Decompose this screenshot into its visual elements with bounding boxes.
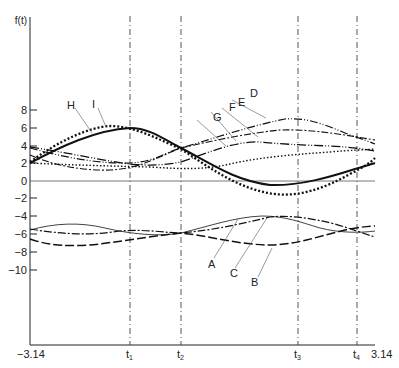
curve-a: [30, 216, 375, 235]
y-tick-label: −8: [14, 246, 27, 258]
y-tick-label: 0: [21, 175, 27, 187]
t3-label: t3: [294, 348, 301, 361]
y-tick-label: −6: [14, 228, 27, 240]
y-tick-label: 4: [21, 140, 27, 152]
curve-label-b: B: [251, 276, 258, 288]
curve-label-c: C: [230, 267, 238, 279]
curve-label-a: A: [208, 258, 216, 270]
curve-e: [30, 130, 375, 170]
curve-label-d: D: [250, 87, 258, 99]
y-tick-label: 2: [21, 157, 27, 169]
t4-label: t4: [353, 348, 360, 361]
curve-label-h: H: [67, 99, 75, 111]
y-axis-label: f(t): [15, 15, 27, 26]
t1-label: t1: [126, 348, 133, 361]
y-tick-label: 8: [21, 104, 27, 116]
curve-f: [30, 142, 375, 165]
curve-c: [30, 216, 375, 237]
curve-label-f: F: [229, 101, 236, 113]
y-tick-label: −4: [14, 210, 27, 222]
curve-label-i: I: [92, 98, 95, 110]
x-min-label: −3.14: [17, 348, 45, 360]
curve-label-e: E: [238, 96, 245, 108]
function-plot: f(t) 8 6 4 2 0 −2 −4 −6 −8 −10 −3.14 3.1…: [0, 0, 399, 368]
x-max-label: 3.14: [371, 348, 392, 360]
y-ticks: [30, 110, 37, 270]
y-tick-label: 6: [21, 122, 27, 134]
t2-label: t2: [177, 348, 184, 361]
curve-label-g: G: [213, 111, 222, 123]
time-markers: [130, 16, 357, 345]
y-tick-label: −10: [8, 264, 27, 276]
y-tick-label: −2: [14, 192, 27, 204]
